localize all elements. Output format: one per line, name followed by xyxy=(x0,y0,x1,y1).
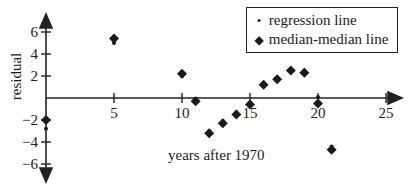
diamond-marker-icon xyxy=(231,110,241,120)
diamond-marker-icon xyxy=(41,115,51,125)
diamond-marker-icon xyxy=(109,34,119,44)
diamond-marker-icon: ◆ xyxy=(253,31,265,49)
diamond-marker-icon xyxy=(299,68,309,78)
y-tick-label: −4 xyxy=(22,134,38,150)
y-axis-up-arrow-icon xyxy=(40,14,52,28)
legend-item-regression: • regression line xyxy=(253,11,357,30)
y-axis-label: residual xyxy=(8,47,25,107)
legend-item-median-median: ◆ median-median line xyxy=(253,30,388,49)
diamond-marker-icon xyxy=(177,69,187,79)
y-tick-label: 6 xyxy=(31,24,39,40)
diamond-marker-icon xyxy=(272,74,282,84)
diamond-marker-icon xyxy=(259,80,269,90)
x-axis-label: years after 1970 xyxy=(168,147,265,164)
dot-marker-icon: • xyxy=(253,12,265,30)
diamond-marker-icon xyxy=(218,118,228,128)
diamond-marker-icon xyxy=(286,66,296,76)
diamond-marker-icon xyxy=(204,128,214,138)
dot-marker-icon xyxy=(316,95,320,99)
x-tick-label: 25 xyxy=(379,105,394,121)
x-axis-arrow-icon xyxy=(388,92,402,104)
y-tick-label: 2 xyxy=(31,68,39,84)
diamond-marker-icon xyxy=(327,145,337,155)
legend-label: regression line xyxy=(269,12,357,28)
y-axis-down-arrow-icon xyxy=(40,168,52,182)
dot-marker-icon xyxy=(44,127,48,131)
x-tick-label: 5 xyxy=(110,105,118,121)
y-tick-label: 4 xyxy=(31,46,39,62)
legend-label: median-median line xyxy=(269,31,389,47)
y-tick-label: −6 xyxy=(22,156,38,172)
x-tick-label: 10 xyxy=(175,105,190,121)
y-tick-label: −2 xyxy=(22,112,38,128)
legend: • regression line ◆ median-median line xyxy=(246,7,398,53)
